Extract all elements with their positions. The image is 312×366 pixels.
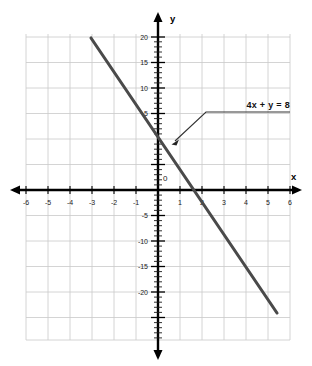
x-tick-label: 1 [178,199,182,206]
y-tick-label: 20 [140,34,148,41]
graph-canvas: -6 -5 -4 -3 -2 -1 1 2 3 4 5 6 20 15 10 5… [0,0,312,366]
y-axis-arrow-down-icon [154,350,163,360]
x-tick-label: -2 [111,199,117,206]
equation-label: 4x + y = 8 [246,100,290,110]
origin-label: 0 [163,174,168,183]
x-axis-label: x [291,171,297,182]
coordinate-graph: -6 -5 -4 -3 -2 -1 1 2 3 4 5 6 20 15 10 5… [0,0,312,366]
y-tick-label: -20 [138,289,148,296]
x-tick-label: -3 [89,199,95,206]
y-tick-label: -10 [138,238,148,245]
y-axis-label: y [170,13,176,24]
x-axis-arrow-right-icon [292,186,302,195]
y-axis-arrow-up-icon [154,12,163,22]
y-tick-label: -5 [142,212,148,219]
x-axis-arrow-left-icon [10,186,20,195]
x-tick-label: -4 [67,199,73,206]
x-tick-label: -6 [23,199,29,206]
y-tick-label: 10 [140,85,148,92]
x-tick-label: 6 [288,199,292,206]
y-tick-label: -15 [138,263,148,270]
x-tick-label: 3 [222,199,226,206]
x-tick-label: 5 [266,199,270,206]
x-tick-label: -1 [133,199,139,206]
x-tick-label: 4 [244,199,248,206]
y-tick-label: 15 [140,59,148,66]
x-tick-label: -5 [45,199,51,206]
